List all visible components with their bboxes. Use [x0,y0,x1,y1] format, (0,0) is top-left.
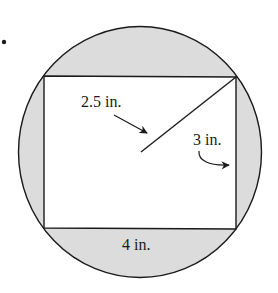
bullet-dot [2,40,6,44]
circle-rectangle-diagram: 2.5 in. 3 in. 4 in. [0,0,278,293]
radius-label: 2.5 in. [81,93,121,110]
height-label: 3 in. [193,131,221,148]
width-label: 4 in. [122,236,150,253]
